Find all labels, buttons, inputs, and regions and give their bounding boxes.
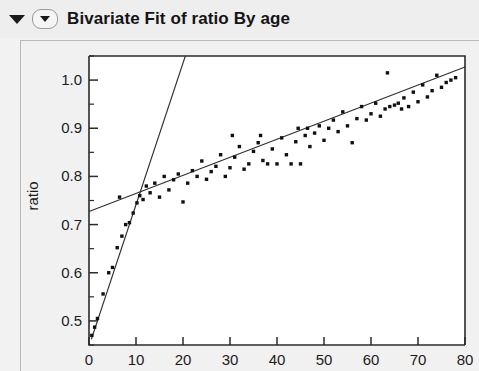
report-title-bar: Bivariate Fit of ratio By age [0,0,479,38]
page-title: Bivariate Fit of ratio By age [67,9,290,29]
report-panel [20,40,479,371]
bivariate-disclosure-toggle[interactable] [32,9,58,29]
triangle-down-icon [9,15,25,24]
disclosure-triangle-down-icon [40,16,50,22]
outline-toggle[interactable] [6,0,28,38]
bivariate-fit-window: Bivariate Fit of ratio By age 0.50.60.70… [0,0,479,371]
